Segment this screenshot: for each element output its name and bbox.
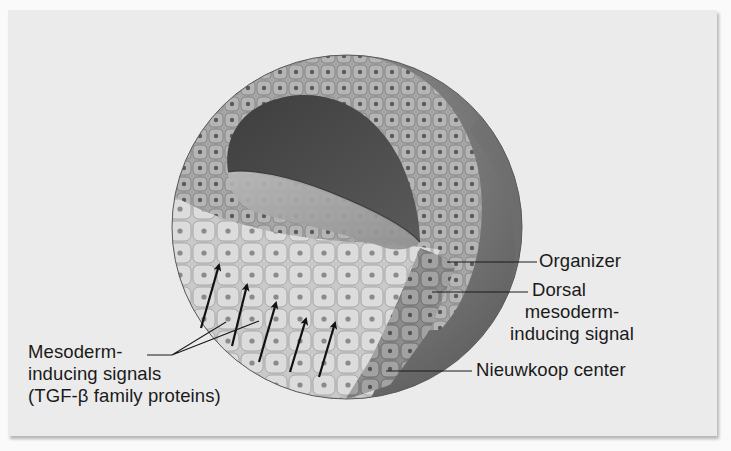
- embryo-sphere: [172, 55, 522, 400]
- label-line: inducing signal: [497, 323, 647, 345]
- label-dorsal-mesoderm-inducing-signal: Dorsal mesoderm- inducing signal: [497, 279, 647, 345]
- label-line: inducing signals: [28, 363, 221, 385]
- label-line: mesoderm-: [497, 301, 647, 323]
- label-line: Mesoderm-: [28, 341, 221, 363]
- label-line: Dorsal: [497, 279, 647, 301]
- label-line: (TGF-β family proteins): [28, 385, 221, 407]
- label-organizer: Organizer: [539, 250, 621, 272]
- label-mesoderm-inducing-signals: Mesoderm- inducing signals (TGF-β family…: [28, 341, 221, 407]
- label-nieuwkoop-center: Nieuwkoop center: [476, 359, 626, 381]
